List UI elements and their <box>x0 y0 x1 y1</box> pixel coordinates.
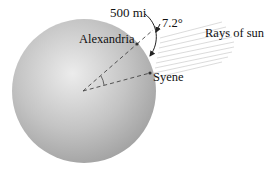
alexandria-point <box>135 42 138 45</box>
distance-arc-arrow <box>145 14 156 56</box>
syene-label: Syene <box>153 71 184 84</box>
alexandria-label: Alexandria <box>79 33 135 46</box>
rays-of-sun-label: Rays of sun <box>205 27 264 40</box>
distance-label: 500 mi <box>110 6 146 19</box>
angle-arrow <box>156 24 160 32</box>
angle-label: 7.2° <box>162 17 183 30</box>
syene-point <box>148 71 151 74</box>
eratosthenes-diagram: 500 mi Alexandria 7.2° Rays of sun Syene <box>0 0 270 171</box>
